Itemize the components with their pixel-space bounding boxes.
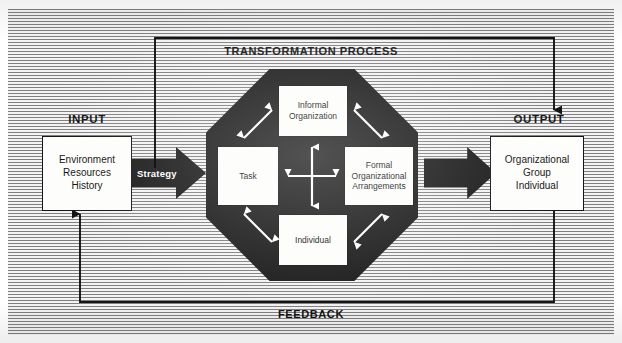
individual-line-1: Individual <box>279 235 347 246</box>
input-line-resources: Resources <box>43 167 131 180</box>
input-line-environment: Environment <box>43 154 131 167</box>
output-box: Organizational Group Individual <box>490 136 584 211</box>
input-section-label: INPUT <box>42 113 132 125</box>
input-line-history: History <box>43 180 131 193</box>
output-line-group: Group <box>491 167 583 180</box>
output-section-label: OUTPUT <box>490 113 588 125</box>
formal-organizational-arrangements-box: Formal Organizational Arrangements <box>344 146 414 206</box>
feedback-label: FEEDBACK <box>245 308 377 320</box>
informal-line-1: Informal <box>279 100 347 111</box>
strategy-arrow-label: Strategy <box>131 168 177 179</box>
task-box: Task <box>217 146 279 206</box>
output-line-organizational: Organizational <box>491 154 583 167</box>
formal-line-1: Formal <box>345 160 413 171</box>
informal-line-2: Organization <box>279 111 347 122</box>
diagram-canvas: INPUT Environment Resources History Stra… <box>0 0 622 343</box>
output-line-individual: Individual <box>491 180 583 193</box>
formal-line-3: Arrangements <box>345 181 413 192</box>
individual-box: Individual <box>278 214 348 266</box>
transformation-process-label: TRANSFORMATION PROCESS <box>196 45 426 57</box>
formal-line-2: Organizational <box>345 171 413 182</box>
informal-organization-box: Informal Organization <box>278 85 348 137</box>
input-box: Environment Resources History <box>42 136 132 211</box>
task-line-1: Task <box>218 171 278 182</box>
